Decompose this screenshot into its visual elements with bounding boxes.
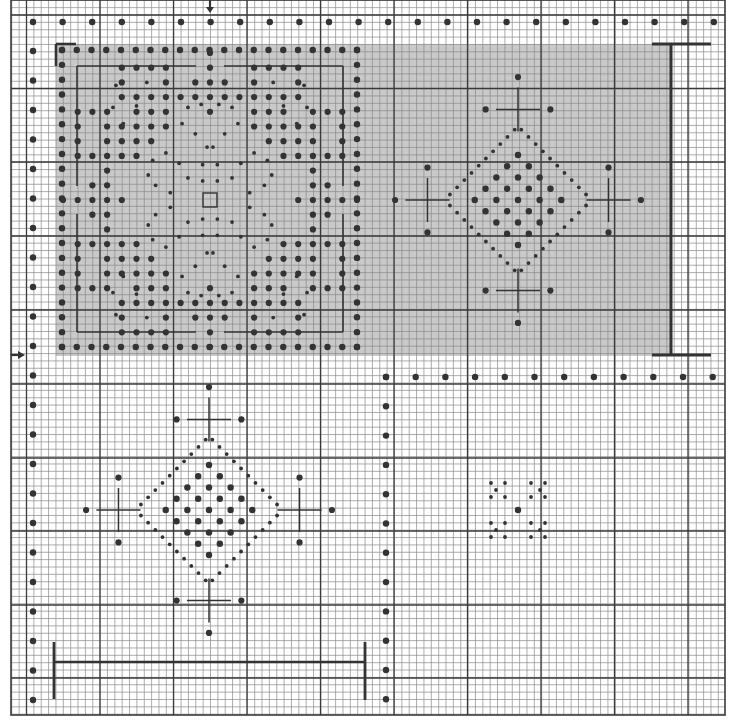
stitch-dot [280, 256, 286, 262]
border-dot [30, 225, 36, 231]
stitch-dot [133, 256, 139, 262]
stitch-dot [133, 241, 139, 247]
stitch-dot [148, 138, 154, 144]
border-dot [650, 374, 656, 380]
stitch-dot [89, 109, 95, 115]
stitch-dot [339, 285, 345, 291]
border-dot [30, 166, 36, 172]
stitch-dot [192, 79, 198, 85]
stitch-dot [266, 94, 272, 100]
small-stitch-dot [282, 292, 286, 296]
stitch-dot [605, 229, 611, 235]
outline-dot [577, 185, 581, 189]
stitch-dot [59, 344, 65, 350]
stitch-dot [133, 329, 139, 335]
stitch-dot [59, 47, 65, 53]
stitch-dot [221, 344, 227, 350]
stitch-dot [59, 284, 65, 290]
stitch-dot [206, 630, 212, 636]
outline-dot [484, 240, 488, 244]
motif-dot [536, 197, 542, 203]
stitch-dot [280, 47, 286, 53]
border-dot [267, 19, 273, 25]
small-stitch-dot [193, 264, 197, 268]
pattern-chart [0, 0, 736, 723]
stitch-dot [354, 344, 360, 350]
stitch-dot [75, 241, 81, 247]
stitch-dot [325, 197, 331, 203]
stitch-dot [59, 299, 65, 305]
stitch-dot [163, 65, 169, 71]
motif-dot [195, 541, 201, 547]
border-dot [30, 195, 36, 201]
stitch-dot [163, 285, 169, 291]
stitch-dot [89, 153, 95, 159]
border-dot [30, 372, 36, 378]
stitch-dot [354, 329, 360, 335]
stitch-dot [251, 329, 257, 335]
motif-dot [536, 174, 542, 180]
stitch-dot [59, 106, 65, 112]
stitch-dot [295, 300, 301, 306]
stitch-dot [266, 329, 272, 335]
stitch-dot [207, 315, 213, 321]
outline-dot [139, 503, 143, 507]
stitch-dot [251, 315, 257, 321]
border-dot [207, 19, 213, 25]
stitch-dot [354, 166, 360, 172]
small-stitch-dot [186, 220, 190, 224]
stitch-dot [148, 329, 154, 335]
stitch-dot [119, 197, 125, 203]
stitch-dot [354, 299, 360, 305]
border-dot [710, 374, 716, 380]
stitch-dot [207, 285, 213, 291]
motif-dot [547, 186, 553, 192]
small-stitch-dot [199, 103, 203, 107]
stitch-dot [59, 166, 65, 172]
motif-dot [536, 219, 542, 225]
stitch-dot [207, 300, 213, 306]
motif-dot [195, 473, 201, 479]
stitch-dot [354, 77, 360, 83]
small-stitch-dot [114, 83, 118, 87]
stitch-dot [148, 65, 154, 71]
outline-dot [218, 571, 222, 575]
stitch-dot [104, 285, 110, 291]
motif-dot [515, 152, 521, 158]
outline-dot [448, 193, 452, 197]
stitch-dot [119, 241, 125, 247]
small-stitch-dot [151, 238, 155, 242]
stitch-dot [75, 256, 81, 262]
stitch-dot [133, 344, 139, 350]
motif-dot [515, 219, 521, 225]
stitch-dot [104, 256, 110, 262]
outline-dot [225, 452, 229, 456]
motif-dot [184, 484, 190, 490]
stitch-dot [59, 210, 65, 216]
small-stitch-dot [538, 488, 542, 492]
motif-dot [173, 518, 179, 524]
stitch-dot [133, 94, 139, 100]
outline-dot [555, 232, 559, 236]
stitch-dot [483, 287, 489, 293]
stitch-dot [251, 109, 257, 115]
outline-dot [462, 178, 466, 182]
outline-dot [210, 578, 214, 582]
stitch-dot [310, 47, 316, 53]
stitch-dot [251, 47, 257, 53]
small-stitch-dot [239, 235, 243, 239]
border-dot [383, 638, 389, 644]
stitch-dot [310, 212, 316, 218]
small-stitch-dot [211, 251, 215, 255]
border-dot [237, 19, 243, 25]
small-stitch-dot [262, 183, 266, 187]
small-stitch-dot [302, 313, 306, 317]
stitch-dot [295, 47, 301, 53]
stitch-dot [238, 416, 244, 422]
outline-dot [534, 254, 538, 258]
border-dot [444, 19, 450, 25]
center-dot [515, 507, 521, 513]
small-stitch-dot [180, 122, 184, 126]
small-stitch-dot [217, 294, 221, 298]
small-stitch-dot [168, 205, 172, 209]
